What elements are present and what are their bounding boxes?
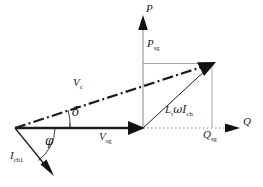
- q-axis-arrowhead: [225, 123, 240, 132]
- v-sg-label: Vsg: [99, 131, 112, 142]
- p-sg-label-sub: sg: [154, 44, 160, 51]
- p-sg-label-base: P: [147, 37, 154, 49]
- omega-i-label: ωI: [173, 103, 186, 116]
- lr-omega-i-ch-shaft: [143, 68, 208, 128]
- i-ch-label-sub: ch: [187, 110, 193, 117]
- v-c-label-sub: c: [80, 83, 83, 90]
- lr-label-sub: r: [171, 110, 173, 117]
- vector-v-c: [15, 62, 216, 128]
- phi-angle-label: φ: [45, 135, 53, 147]
- i-ch1-label: Ich1: [10, 150, 23, 161]
- p-axis-arrowhead: [138, 15, 148, 30]
- phasor-diagram-figure: P Q Psg Qsg Vsg Vc Ich1 LrωIch δ φ: [0, 0, 263, 187]
- q-sg-label-base: Q: [203, 128, 211, 140]
- axis-group: [15, 15, 240, 133]
- v-c-label: Vc: [73, 77, 83, 88]
- p-sg-label: Psg: [147, 38, 160, 49]
- q-sg-label-sub: sg: [211, 135, 217, 142]
- v-c-shaft: [15, 67, 203, 128]
- v-sg-label-base: V: [99, 130, 106, 142]
- v-c-label-base: V: [73, 76, 80, 88]
- v-sg-label-sub: sg: [106, 137, 112, 144]
- vector-lr-omega-i-ch: [143, 68, 208, 128]
- vector-v-sg: [15, 121, 145, 135]
- i-ch1-label-sub: ch1: [14, 156, 23, 163]
- angle-arc-group: [38, 110, 70, 161]
- q-sg-label: Qsg: [203, 129, 217, 140]
- delta-angle-label: δ: [72, 106, 79, 118]
- q-axis-label: Q: [243, 116, 251, 127]
- phasor-diagram-canvas: [0, 0, 263, 187]
- lr-omega-i-ch-label: LrωIch: [165, 104, 193, 115]
- v-sg-arrowhead: [128, 121, 145, 135]
- p-axis-label: P: [146, 3, 153, 14]
